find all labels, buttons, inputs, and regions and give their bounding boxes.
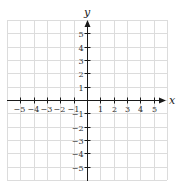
y-tick-label: −1 [72, 110, 84, 119]
x-axis-label: x [169, 94, 176, 107]
x-tick-label: −2 [54, 105, 66, 114]
y-tick-label: −3 [72, 137, 84, 146]
y-tick-label: −5 [72, 164, 84, 173]
x-tick-label: −4 [28, 105, 40, 114]
y-tick-label: 1 [78, 84, 83, 93]
y-tick-label: −4 [72, 150, 84, 159]
x-tick-label: 5 [152, 105, 157, 114]
y-tick-label: 2 [78, 70, 83, 79]
x-tick-label: 3 [125, 105, 130, 114]
x-tick-label: −5 [14, 105, 26, 114]
coordinate-plane: x y −5−4−3−2−11234554321−1−2−3−4−5 [0, 0, 180, 190]
y-tick-label: −2 [72, 124, 84, 133]
x-tick-label: 2 [112, 105, 117, 114]
x-tick-label: 4 [138, 105, 143, 114]
y-tick-label: 3 [78, 57, 83, 66]
y-axis-arrow-icon [85, 20, 91, 27]
x-axis-arrow-icon [159, 98, 166, 104]
y-tick-label: 5 [78, 30, 83, 39]
axes: x y [7, 6, 176, 181]
y-axis-label: y [83, 6, 91, 19]
y-tick-label: 4 [78, 44, 83, 53]
x-tick-label: −3 [41, 105, 53, 114]
x-tick-label: 1 [98, 105, 103, 114]
